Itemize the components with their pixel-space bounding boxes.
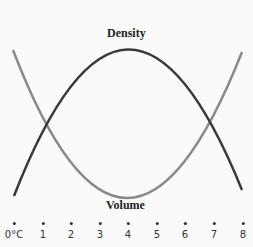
x-tick: 6 <box>182 222 188 240</box>
density-curve <box>14 49 242 196</box>
x-tick: 7 <box>211 222 217 240</box>
x-tick: 8 <box>240 222 246 240</box>
x-tick: 3 <box>97 222 103 240</box>
x-tick: 5 <box>154 222 160 240</box>
volume-label: Volume <box>106 198 145 213</box>
density-label: Density <box>107 26 146 41</box>
x-axis-ticks: 0°C 1 2 3 4 5 6 7 8 <box>0 222 253 247</box>
x-tick: 1 <box>40 222 46 240</box>
x-tick: 2 <box>68 222 74 240</box>
x-tick: 0°C <box>5 222 23 240</box>
x-tick: 4 <box>125 222 131 240</box>
